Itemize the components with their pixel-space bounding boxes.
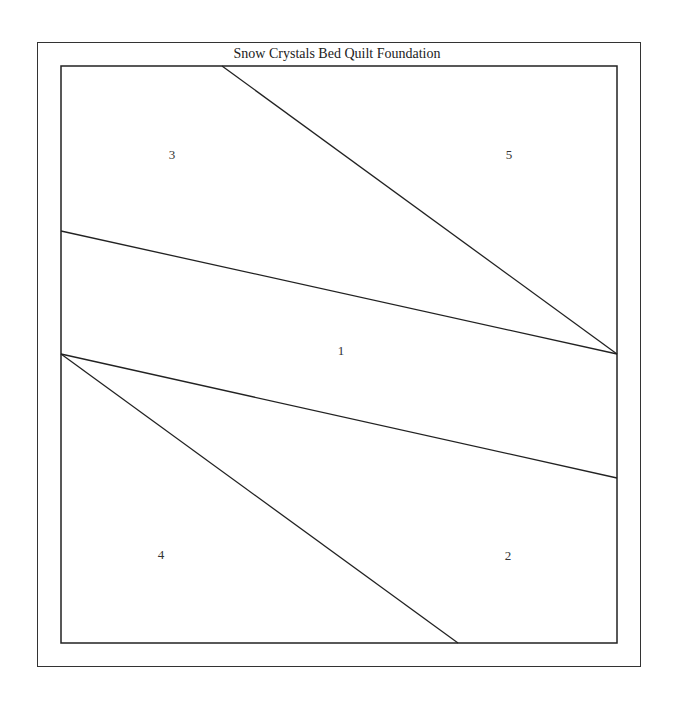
quilt-foundation-diagram: Snow Crystals Bed Quilt Foundation 3 5 1…	[0, 0, 674, 706]
piece-label-3: 3	[169, 147, 176, 163]
piece-label-1: 1	[338, 343, 345, 359]
piece-label-4: 4	[158, 547, 165, 563]
seam-line	[61, 354, 617, 478]
seam-line	[61, 354, 458, 643]
piece-label-5: 5	[506, 147, 513, 163]
piece-label-2: 2	[505, 548, 512, 564]
